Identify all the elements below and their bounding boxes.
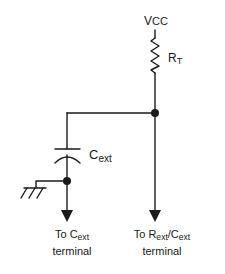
cext-label-sub: ext	[98, 153, 112, 164]
ground-tick-1	[21, 188, 27, 198]
ground-tick-2	[29, 188, 35, 198]
left-terminal-line1: To Cext	[42, 229, 102, 240]
left-terminal-sub: ext	[78, 232, 89, 242]
right-terminal-prefix: To R	[134, 228, 157, 240]
left-terminal-label: To Cext terminal	[42, 229, 102, 257]
vcc-label: VCC	[144, 15, 168, 27]
right-terminal-label: To Rext/Cext terminal	[114, 229, 210, 257]
rt-label-main: R	[168, 51, 177, 65]
vcc-label-sub: CC	[152, 15, 168, 27]
left-terminal-prefix: To C	[55, 228, 78, 240]
cext-label: Cext	[89, 148, 112, 161]
junction-dot-top	[151, 109, 159, 117]
right-terminal-sub1: ext	[156, 232, 167, 242]
ground-wire	[36, 181, 67, 188]
arrow-right-terminal-icon	[149, 210, 161, 222]
right-terminal-sub2: ext	[179, 232, 190, 242]
right-terminal-line1: To Rext/Cext	[114, 229, 210, 240]
vcc-label-main: V	[144, 14, 152, 28]
cext-label-main: C	[89, 147, 98, 162]
right-terminal-mid: /C	[168, 228, 179, 240]
resistor-rt-symbol	[151, 38, 159, 73]
rt-label: RT	[168, 52, 182, 64]
rt-label-sub: T	[177, 56, 183, 66]
junction-dot-cap	[63, 177, 71, 185]
arrow-left-terminal-icon	[61, 210, 73, 222]
right-terminal-line2: terminal	[114, 246, 210, 257]
left-terminal-line2: terminal	[42, 246, 102, 257]
ground-tick-3	[37, 188, 43, 198]
